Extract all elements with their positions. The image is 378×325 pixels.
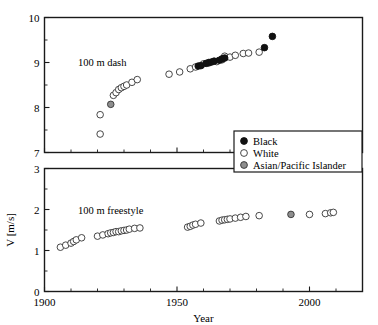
chart-legend: BlackWhiteAsian/Pacific Islander (234, 131, 362, 172)
x-tick-label: 2000 (299, 296, 322, 308)
data-point (256, 212, 263, 219)
series-black (195, 33, 276, 69)
data-point (288, 211, 295, 218)
shared-x-axis: 190019502000YearV [m/s] (4, 213, 321, 323)
legend-label: Black (253, 136, 278, 147)
y-tick-label: 3 (34, 163, 40, 175)
legend-marker (241, 150, 248, 157)
plot-frame (45, 169, 363, 292)
legend-item: Asian/Pacific Islander (241, 160, 347, 171)
data-point (97, 131, 104, 138)
y-tick-label: 10 (29, 12, 41, 24)
data-point (306, 211, 313, 218)
panel-annotation: 100 m dash (78, 57, 127, 68)
data-point (261, 44, 268, 51)
y-tick-label: 2 (34, 204, 40, 216)
data-point (134, 76, 141, 83)
data-point (243, 213, 250, 220)
data-point (330, 209, 337, 216)
data-point (176, 69, 183, 76)
legend-marker (241, 162, 248, 169)
legend-label: White (253, 148, 279, 159)
data-point (166, 71, 173, 78)
data-point (78, 234, 85, 241)
data-point (198, 220, 205, 227)
x-tick-label: 1950 (166, 296, 189, 308)
x-tick-label: 1900 (34, 296, 57, 308)
figure-container: 78910100 m dash 0123100 m freestyle 1900… (0, 0, 378, 325)
y-tick-label: 7 (34, 147, 40, 159)
data-point (269, 33, 276, 40)
x-axis-title: Year (193, 312, 214, 324)
legend-label: Asian/Pacific Islander (253, 160, 347, 171)
data-point (137, 225, 144, 232)
chart-canvas: 78910100 m dash 0123100 m freestyle 1900… (0, 0, 378, 325)
series-asian-pacific-islander (107, 101, 114, 108)
y-tick-label: 1 (34, 245, 40, 257)
legend-marker (241, 138, 248, 145)
y-tick-label: 9 (34, 57, 40, 69)
data-point (232, 52, 239, 59)
panel-freestyle: 0123100 m freestyle (34, 163, 363, 298)
data-point (221, 55, 228, 62)
data-point (107, 101, 114, 108)
series-asian-pacific-islander (288, 211, 295, 218)
data-point (97, 111, 104, 118)
panel-annotation: 100 m freestyle (78, 205, 144, 216)
y-tick-label: 8 (34, 102, 40, 114)
data-point (245, 50, 252, 57)
y-axis-title: V [m/s] (4, 213, 16, 247)
